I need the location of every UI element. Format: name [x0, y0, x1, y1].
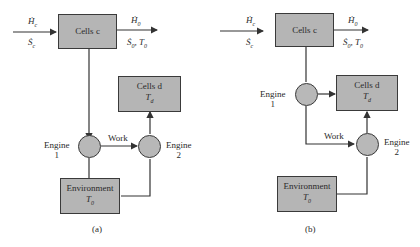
- engine-1-circle-a: [78, 135, 101, 158]
- environment-temp: T0: [86, 194, 94, 209]
- cells-d-box-b: Cells d Td: [336, 75, 398, 111]
- engine-2-label-a: Engine2: [166, 140, 192, 160]
- cells-c-box-a: Cells c: [58, 14, 117, 49]
- engine-2-circle-b: [356, 133, 379, 156]
- cells-d-temp: Td: [145, 92, 153, 107]
- work-label-a: Work: [108, 133, 128, 143]
- engine-2-label-b: Engine2: [384, 137, 410, 157]
- input-s-label-a: Ṡc: [28, 37, 35, 51]
- caption-a: (a): [92, 224, 102, 234]
- environment-temp: T0: [303, 192, 311, 207]
- cells-d-temp: Td: [363, 91, 371, 106]
- output-s-label-a: Ṡ0, T0: [127, 37, 147, 51]
- input-h-label-a: Ḣc: [28, 16, 37, 30]
- cells-c-box-b: Cells c: [275, 13, 334, 47]
- cells-c-label: Cells c: [292, 25, 317, 36]
- cells-d-label: Cells d: [137, 81, 162, 92]
- environment-box-b: Environment T0: [277, 176, 337, 212]
- engine-1-label-b: Engine1: [260, 89, 286, 109]
- caption-b: (b): [305, 224, 316, 234]
- input-h-label-b: Ḣc: [246, 15, 255, 29]
- engine-1-circle-b: [295, 83, 318, 106]
- work-label-b: Work: [324, 131, 344, 141]
- environment-label: Environment: [67, 183, 114, 194]
- input-s-label-b: Ṡc: [246, 37, 253, 51]
- output-h-label-b: Ḣ0: [348, 15, 358, 29]
- environment-label: Environment: [284, 181, 331, 192]
- cells-c-label: Cells c: [75, 26, 100, 37]
- engine-1-label-a: Engine1: [44, 140, 70, 160]
- engine-2-circle-a: [138, 135, 161, 158]
- cells-d-label: Cells d: [354, 80, 379, 91]
- output-s-label-b: Ṡ0, T0: [343, 37, 363, 51]
- output-h-label-a: Ḣ0: [131, 15, 141, 29]
- cells-d-box-a: Cells d Td: [118, 76, 181, 112]
- environment-box-a: Environment T0: [60, 178, 120, 214]
